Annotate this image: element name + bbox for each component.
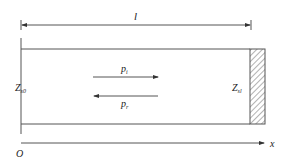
x-axis-label: x [269, 138, 275, 149]
length-dimension: l [21, 10, 251, 30]
incident-wave: pi [93, 63, 158, 77]
termination-hatch [250, 49, 265, 124]
length-label: l [134, 10, 137, 22]
x-axis: x O [16, 138, 275, 159]
tube [21, 38, 265, 134]
right-impedance-label: Zsl [232, 82, 242, 94]
origin-label: O [16, 148, 23, 159]
incident-label: pi [120, 63, 128, 75]
tube-diagram: l pi pr Zs0 Zsl x O [0, 0, 289, 168]
left-impedance-label: Zs0 [15, 82, 26, 94]
reflected-label: pr [120, 98, 129, 110]
reflected-wave: pr [94, 96, 158, 110]
